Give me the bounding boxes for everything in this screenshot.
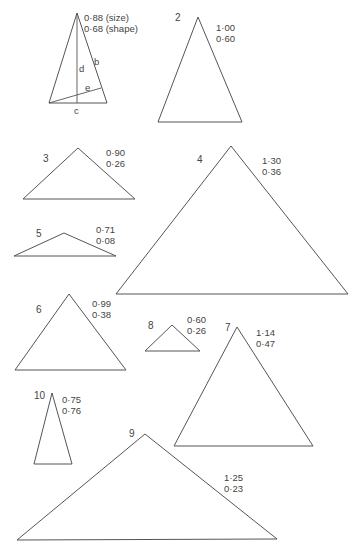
triangle-9-number: 9: [129, 428, 135, 439]
triangle-1-shape: 0·68 (shape): [84, 23, 138, 34]
triangle-shape-diagram: 0·88 (size) 0·68 (shape) b d e c 2 1·00 …: [0, 0, 360, 554]
triangle-4-number: 4: [197, 154, 203, 165]
triangle-10-number: 10: [34, 390, 45, 401]
triangle-2-values: 1·00 0·60: [216, 22, 235, 44]
triangle-5-number: 5: [36, 228, 42, 239]
triangle-6-shape: 0·38: [92, 309, 111, 320]
triangle-10-shape: 0·76: [62, 405, 81, 416]
height-label-d: d: [79, 63, 84, 74]
triangle-9-shape: 0·23: [224, 483, 243, 494]
triangle-8-shape: 0·26: [187, 325, 206, 336]
triangle-10-values: 0·75 0·76: [62, 394, 81, 416]
triangle-6-number: 6: [36, 304, 42, 315]
triangle-2-shape: 0·60: [216, 33, 235, 44]
triangle-4-values: 1·30 0·36: [262, 155, 281, 177]
triangle-8-size: 0·60: [187, 314, 206, 325]
triangle-7-size: 1·14: [256, 327, 275, 338]
triangle-1-values: 0·88 (size) 0·68 (shape): [84, 12, 138, 34]
triangle-10-size: 0·75: [62, 394, 81, 405]
triangle-2-number: 2: [175, 12, 181, 23]
triangle-6-values: 0·99 0·38: [92, 298, 111, 320]
triangle-7-number: 7: [225, 322, 231, 333]
base-label-c: c: [74, 105, 79, 116]
triangles-drawing: [0, 0, 360, 554]
altitude-label-e: e: [85, 82, 90, 93]
triangle-4-shape: 0·36: [262, 166, 281, 177]
triangle-3-shape: 0·26: [106, 158, 125, 169]
side-label-b: b: [94, 56, 99, 67]
triangle-3-number: 3: [43, 153, 49, 164]
triangle-1-altitude-e: [49, 88, 101, 103]
triangle-7-shape: 0·47: [256, 338, 275, 349]
triangle-2-size: 1·00: [216, 22, 235, 33]
triangle-1-size: 0·88 (size): [84, 12, 138, 23]
triangle-6-size: 0·99: [92, 298, 111, 309]
triangle-5-values: 0·71 0·08: [96, 224, 115, 246]
triangle-9-size: 1·25: [224, 472, 243, 483]
triangle-3-size: 0·90: [106, 147, 125, 158]
triangle-4-size: 1·30: [262, 155, 281, 166]
triangle-5-shape: 0·08: [96, 235, 115, 246]
triangle-8-values: 0·60 0·26: [187, 314, 206, 336]
triangle-3-values: 0·90 0·26: [106, 147, 125, 169]
triangle-8-number: 8: [148, 320, 154, 331]
triangle-7: [174, 327, 313, 446]
triangle-7-values: 1·14 0·47: [256, 327, 275, 349]
triangle-5-size: 0·71: [96, 224, 115, 235]
triangle-4: [116, 146, 348, 294]
triangle-9-values: 1·25 0·23: [224, 472, 243, 494]
